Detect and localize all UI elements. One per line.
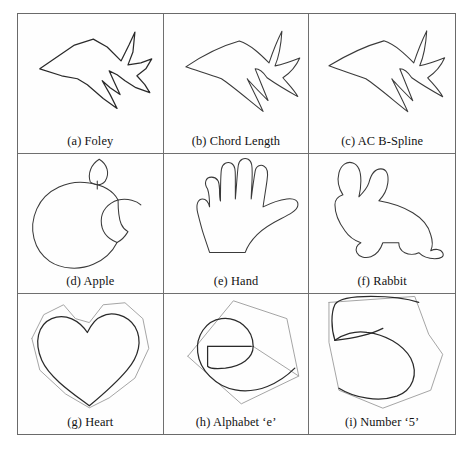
- fish-outline-ac-bspline: [309, 14, 455, 134]
- figure-cell-i: (i) Number ‘5’: [309, 294, 455, 434]
- figure-caption-i: (i) Number ‘5’: [309, 415, 455, 434]
- figure-grid: (a) Foley (b) Chord Length (c) AC B-Spli…: [17, 13, 456, 435]
- figure-cell-b: (b) Chord Length: [164, 14, 310, 154]
- fish-outline-foley: [18, 14, 163, 134]
- figure-caption-h: (h) Alphabet ‘e’: [164, 415, 309, 434]
- figure-caption-e: (e) Hand: [164, 274, 309, 293]
- figure-caption-f: (f) Rabbit: [309, 274, 455, 293]
- figure-cell-a: (a) Foley: [18, 14, 164, 154]
- figure-caption-a: (a) Foley: [18, 134, 163, 153]
- fish-outline-chord-length: [164, 14, 309, 134]
- figure-cell-h: (h) Alphabet ‘e’: [164, 294, 310, 434]
- figure-caption-c: (c) AC B-Spline: [309, 134, 455, 153]
- figure-caption-g: (g) Heart: [18, 415, 163, 434]
- heart-outline: [18, 294, 163, 415]
- number-5-outline: [309, 294, 455, 415]
- figure-cell-f: (f) Rabbit: [309, 154, 455, 294]
- figure-cell-e: (e) Hand: [164, 154, 310, 294]
- hand-outline: [164, 154, 309, 274]
- letter-e-outline: [164, 294, 309, 415]
- figure-cell-c: (c) AC B-Spline: [309, 14, 455, 154]
- rabbit-outline: [309, 154, 455, 274]
- apple-logo-outline: [18, 154, 163, 274]
- figure-caption-d: (d) Apple: [18, 274, 163, 293]
- figure-cell-g: (g) Heart: [18, 294, 164, 434]
- figure-caption-b: (b) Chord Length: [164, 134, 309, 153]
- figure-cell-d: (d) Apple: [18, 154, 164, 294]
